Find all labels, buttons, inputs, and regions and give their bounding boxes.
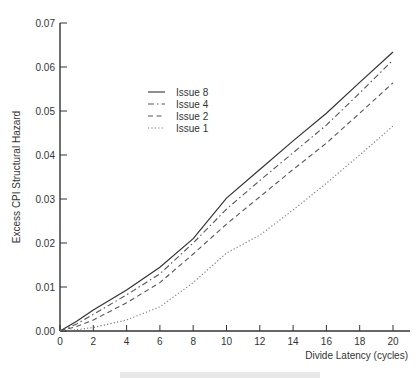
y-tick-label: 0.04 <box>36 150 56 161</box>
x-tick-label: 6 <box>157 336 163 347</box>
x-tick-label: 12 <box>254 336 266 347</box>
series-line-issue-2 <box>60 83 393 331</box>
axes: 0.000.010.020.030.040.050.060.0702468101… <box>36 18 410 348</box>
legend-label: Issue 4 <box>176 99 209 110</box>
legend-label: Issue 1 <box>176 123 209 134</box>
legend: Issue 8Issue 4Issue 2Issue 1 <box>148 87 209 134</box>
y-tick-label: 0.05 <box>36 106 56 117</box>
y-tick-label: 0.02 <box>36 238 56 249</box>
y-tick-label: 0.07 <box>36 18 56 29</box>
x-tick-label: 16 <box>321 336 333 347</box>
line-chart: 0.000.010.020.030.040.050.060.0702468101… <box>0 0 420 378</box>
legend-label: Issue 8 <box>176 87 209 98</box>
y-tick-label: 0.03 <box>36 194 56 205</box>
y-axis-title: Excess CPI Structural Hazard <box>11 111 22 243</box>
x-tick-label: 14 <box>288 336 300 347</box>
caption-faint <box>120 372 320 378</box>
x-tick-label: 2 <box>91 336 97 347</box>
x-tick-label: 20 <box>387 336 399 347</box>
y-tick-label: 0.06 <box>36 62 56 73</box>
series-line-issue-4 <box>60 60 393 331</box>
x-tick-label: 4 <box>124 336 130 347</box>
x-tick-label: 18 <box>354 336 366 347</box>
y-tick-label: 0.00 <box>36 326 56 337</box>
x-axis-title: Divide Latency (cycles) <box>305 350 408 361</box>
x-tick-label: 8 <box>190 336 196 347</box>
x-tick-label: 10 <box>221 336 233 347</box>
series-line-issue-8 <box>60 52 393 331</box>
y-tick-label: 0.01 <box>36 282 56 293</box>
legend-label: Issue 2 <box>176 111 209 122</box>
x-tick-label: 0 <box>57 336 63 347</box>
plot-lines <box>60 52 393 331</box>
